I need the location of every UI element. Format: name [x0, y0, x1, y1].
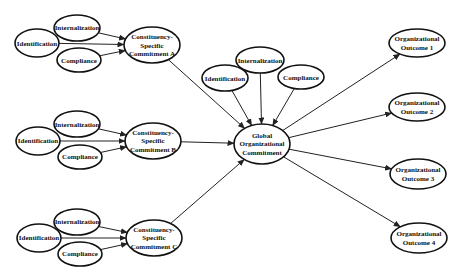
arrow-compG-to-global	[273, 89, 295, 126]
node-label: Identification	[19, 234, 60, 242]
node-idA: Identification	[15, 29, 59, 57]
node-intB: Internalization	[54, 111, 100, 137]
node-label: Organizational	[395, 166, 440, 174]
arrow-compC-to-csC	[101, 244, 128, 250]
arrow-intB-to-csB	[98, 129, 126, 135]
node-csB: Constituency-SpecificCommitment B	[125, 123, 181, 159]
node-label: Constituency-	[133, 226, 175, 234]
node-label: Constituency-	[131, 33, 173, 41]
node-label: Commitment A	[129, 50, 175, 58]
arrow-idA-to-csA	[59, 43, 124, 44]
node-intA: Internalization	[54, 15, 100, 41]
arrow-compA-to-csA	[100, 51, 126, 56]
node-label: Outcome 2	[401, 108, 434, 116]
node-label: Outcome 1	[401, 44, 434, 52]
node-out3: OrganizationalOutcome 3	[390, 159, 446, 189]
node-global: GlobalOrganizationalCommitment	[234, 124, 290, 164]
arrow-intC-to-csC	[99, 227, 128, 233]
arrow-intA-to-csA	[98, 33, 125, 39]
node-label: Internalization	[55, 121, 100, 129]
node-compA: Compliance	[57, 48, 101, 72]
node-intC: Internalization	[54, 209, 100, 235]
node-label: Global	[252, 132, 272, 140]
node-label: Compliance	[283, 74, 319, 82]
node-idC: Identification	[17, 224, 61, 252]
node-compC: Compliance	[58, 242, 102, 266]
node-label: Specific	[142, 234, 165, 242]
commitment-path-diagram: InternalizationIdentificationComplianceC…	[0, 0, 463, 280]
node-idG: Identification	[202, 65, 248, 91]
arrow-global-to-out3	[289, 149, 392, 169]
node-label: Identification	[18, 137, 59, 145]
node-idB: Identification	[16, 127, 60, 155]
arrow-csC-to-global	[171, 160, 245, 224]
node-out2: OrganizationalOutcome 2	[389, 93, 445, 121]
node-csC: Constituency-SpecificCommitment C	[126, 220, 182, 256]
node-label: Constituency-	[132, 129, 174, 137]
node-label: Commitment C	[131, 243, 177, 251]
node-label: Identification	[205, 75, 246, 83]
node-label: Outcome 4	[403, 239, 436, 247]
node-out4: OrganizationalOutcome 4	[391, 223, 447, 253]
node-label: Internalization	[55, 24, 100, 32]
node-label: Identification	[17, 40, 58, 48]
node-label: Organizational	[394, 35, 439, 43]
node-label: Organizational	[239, 140, 284, 148]
node-compB: Compliance	[58, 145, 102, 169]
node-label: Specific	[140, 42, 163, 50]
node-label: Commitment B	[130, 146, 176, 154]
node-label: Outcome 3	[402, 175, 435, 183]
node-label: Organizational	[396, 230, 441, 238]
node-out1: OrganizationalOutcome 1	[389, 29, 445, 57]
arrow-csB-to-global	[181, 142, 234, 143]
node-label: Internalization	[55, 218, 100, 226]
arrow-compB-to-csB	[100, 147, 126, 153]
arrow-intG-to-global	[260, 73, 261, 124]
node-label: Compliance	[62, 153, 98, 161]
node-label: Compliance	[61, 57, 97, 65]
node-csA: Constituency-SpecificCommitment A	[124, 27, 180, 63]
node-label: Specific	[141, 137, 164, 145]
node-label: Internalization	[238, 57, 283, 65]
node-compG: Compliance	[278, 65, 324, 89]
node-label: Compliance	[62, 250, 98, 258]
node-label: Commitment	[242, 149, 282, 157]
node-label: Organizational	[394, 99, 439, 107]
